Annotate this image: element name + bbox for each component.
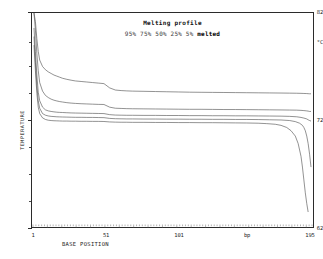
curve-75pct: [34, 13, 311, 111]
melting-curves: [32, 13, 313, 227]
curve-50pct: [34, 28, 311, 121]
curve-5pct: [34, 45, 308, 212]
melting-profile-figure: 82 °C 72 62 TEMPERATURE Melting profile …: [0, 0, 323, 259]
x-tick-label-1: 1: [31, 232, 34, 239]
plot-area: Melting profile 95% 75% 50% 25% 5% melte…: [31, 12, 314, 228]
x-tick-label-51: 51: [103, 232, 109, 239]
x-axis-bp-label: bp: [244, 232, 250, 239]
y-axis-title: TEMPERATURE: [19, 110, 25, 150]
curve-25pct: [34, 37, 311, 168]
x-tick-label-101: 101: [174, 232, 183, 239]
x-tick-label-195: 195: [305, 232, 314, 239]
curve-95pct: [34, 13, 311, 94]
x-axis-title: BASE POSITION: [62, 241, 109, 248]
sequence-tick-comb: [31, 224, 314, 230]
